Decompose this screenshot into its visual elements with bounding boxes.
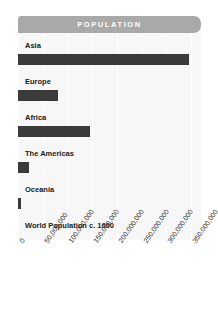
population-bar-chart: POPULATION AsiaEuropeAfricaThe AmericasO…: [0, 0, 218, 320]
bar: [18, 126, 90, 137]
plot-area: AsiaEuropeAfricaThe AmericasOceaniaWorld…: [18, 33, 201, 240]
bar-category-label: Europe: [25, 77, 51, 86]
bar-category-label: The Americas: [25, 149, 74, 158]
bar: [18, 90, 58, 101]
bar-category-label: Oceania: [25, 185, 54, 194]
bar-category-label: Asia: [25, 41, 41, 50]
bar-category-label: Africa: [25, 113, 46, 122]
bar: [18, 162, 29, 173]
bar: [18, 198, 21, 209]
chart-title: POPULATION: [77, 20, 142, 29]
x-axis-tick-labels: 050,000,000100,000,000150,000,000200,000…: [0, 240, 218, 320]
bar: [18, 54, 189, 65]
gridline: [191, 33, 192, 240]
chart-header-band: POPULATION: [18, 16, 201, 33]
